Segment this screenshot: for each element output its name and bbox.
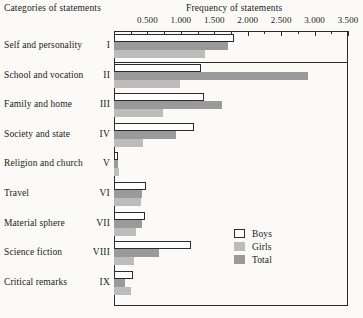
x-tick-label-2.000: 2.000 xyxy=(237,15,258,25)
x-tick-label-3.000: 3.000 xyxy=(304,15,325,25)
category-numeral-I: I xyxy=(86,40,110,50)
bar-total-II xyxy=(114,72,308,80)
bar-girls-IV xyxy=(114,139,143,147)
x-axis-tick-labels: 0.5001.0001.5002.0002.5003.0003.500 xyxy=(0,15,363,27)
category-label-I: Self and personality xyxy=(4,40,82,50)
bar-group-III xyxy=(114,93,348,117)
x-tick-label-2.500: 2.500 xyxy=(271,15,292,25)
bar-total-VI xyxy=(114,190,142,198)
category-numeral-VIII: VIII xyxy=(86,247,110,257)
bar-girls-IX xyxy=(114,287,131,295)
x-tick-major xyxy=(348,31,349,36)
bar-total-V xyxy=(114,160,118,168)
category-numeral-III: III xyxy=(86,99,110,109)
legend-swatch-girls xyxy=(234,242,245,251)
bar-group-I xyxy=(114,34,348,58)
group-separator xyxy=(114,62,348,63)
legend-item-boys: Boys xyxy=(234,227,272,240)
chart-container: Categories of statements Frequency of st… xyxy=(0,0,363,318)
bar-boys-II xyxy=(114,64,201,72)
bar-boys-VI xyxy=(114,182,146,190)
bar-group-II xyxy=(114,64,348,88)
category-label-VII: Material sphere xyxy=(4,218,65,228)
bar-boys-VIII xyxy=(114,241,191,249)
category-numeral-II: II xyxy=(86,70,110,80)
legend: BoysGirlsTotal xyxy=(234,227,272,266)
category-label-V: Religion and church xyxy=(4,158,83,168)
category-label-IX: Critical remarks xyxy=(4,277,67,287)
bar-total-I xyxy=(114,42,228,50)
category-numeral-VII: VII xyxy=(86,218,110,228)
bar-group-VI xyxy=(114,182,348,206)
category-label-VIII: Science fiction xyxy=(4,247,62,257)
bar-girls-I xyxy=(114,50,205,58)
x-tick-label-1.500: 1.500 xyxy=(204,15,225,25)
bar-group-V xyxy=(114,152,348,176)
bar-girls-III xyxy=(114,109,163,117)
legend-label-boys: Boys xyxy=(252,229,272,239)
frequency-axis-title: Frequency of statements xyxy=(186,3,282,13)
x-tick-label-3.500: 3.500 xyxy=(338,15,359,25)
bar-boys-III xyxy=(114,93,204,101)
bar-girls-VIII xyxy=(114,257,134,265)
bar-boys-IX xyxy=(114,271,133,279)
category-label-II: School and vocation xyxy=(4,70,83,80)
bar-boys-IV xyxy=(114,123,194,131)
legend-item-total: Total xyxy=(234,253,272,266)
bar-girls-VII xyxy=(114,228,136,236)
category-label-IV: Society and state xyxy=(4,129,70,139)
category-numeral-IV: IV xyxy=(86,129,110,139)
bar-total-IV xyxy=(114,131,176,139)
bar-girls-II xyxy=(114,80,180,88)
category-numeral-VI: VI xyxy=(86,188,110,198)
category-label-III: Family and home xyxy=(4,99,72,109)
bar-group-IX xyxy=(114,271,348,295)
x-tick-label-1.000: 1.000 xyxy=(170,15,191,25)
category-numeral-V: V xyxy=(86,158,110,168)
bar-total-VII xyxy=(114,220,142,228)
bar-girls-VI xyxy=(114,198,141,206)
legend-label-total: Total xyxy=(252,255,272,265)
bar-group-VII xyxy=(114,212,348,236)
x-tick-label-0.500: 0.500 xyxy=(137,15,158,25)
categories-axis-title: Categories of statements xyxy=(4,3,101,13)
bar-total-III xyxy=(114,101,222,109)
bar-boys-VII xyxy=(114,212,145,220)
bar-girls-V xyxy=(114,168,119,176)
legend-item-girls: Girls xyxy=(234,240,272,253)
legend-swatch-boys xyxy=(234,229,245,238)
bar-total-IX xyxy=(114,279,125,287)
bar-boys-I xyxy=(114,34,234,42)
legend-label-girls: Girls xyxy=(252,242,272,252)
bar-group-IV xyxy=(114,123,348,147)
bar-group-VIII xyxy=(114,241,348,265)
category-numeral-IX: IX xyxy=(86,277,110,287)
bar-boys-V xyxy=(114,152,118,160)
category-label-VI: Travel xyxy=(4,188,29,198)
legend-swatch-total xyxy=(234,255,245,264)
bar-total-VIII xyxy=(114,249,159,257)
